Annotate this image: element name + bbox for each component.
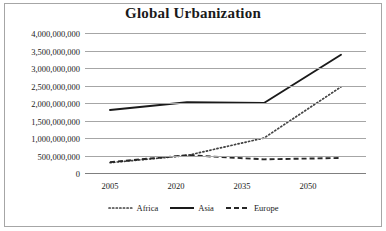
chart-title: Global Urbanization: [0, 5, 386, 22]
legend-item-asia[interactable]: Asia: [169, 203, 214, 213]
gridline-3000000000: [85, 68, 366, 69]
gridline-4000000000: [85, 33, 366, 34]
y-axis-label-3500000000: 3,500,000,000: [0, 48, 80, 57]
x-axis-line: [85, 173, 366, 174]
legend-label-europe: Europe: [254, 203, 279, 213]
legend-item-africa[interactable]: Africa: [108, 203, 159, 213]
y-axis-label-3000000000: 3,000,000,000: [0, 65, 80, 74]
chart-container: Global Urbanization 4,000,000,000 3,500,…: [0, 0, 386, 231]
y-axis-label-2000000000: 2,000,000,000: [0, 100, 80, 109]
y-axis-label-1000000000: 1,000,000,000: [0, 135, 80, 144]
y-axis-label-2500000000: 2,500,000,000: [0, 83, 80, 92]
gridline-1000000000: [85, 138, 366, 139]
chart-legend: Africa Asia Europe: [0, 203, 386, 213]
x-axis-label-2020: 2020: [146, 181, 206, 191]
y-axis-label-500000000: 500,000,000: [0, 153, 80, 162]
legend-item-europe[interactable]: Europe: [225, 203, 279, 213]
legend-swatch-dashed-icon: [225, 204, 251, 212]
y-axis-label-4000000000: 4,000,000,000: [0, 30, 80, 39]
legend-label-africa: Africa: [137, 203, 159, 213]
y-axis-label-0: 0: [0, 170, 80, 179]
series-line-asia: [110, 55, 341, 110]
x-axis-label-2050: 2050: [278, 181, 338, 191]
gridline-3500000000: [85, 51, 366, 52]
gridline-2000000000: [85, 103, 366, 104]
x-axis-label-2035: 2035: [212, 181, 272, 191]
legend-label-asia: Asia: [198, 203, 214, 213]
gridline-1500000000: [85, 121, 366, 122]
y-axis-label-1500000000: 1,500,000,000: [0, 118, 80, 127]
gridline-500000000: [85, 156, 366, 157]
series-line-africa: [110, 87, 341, 163]
legend-swatch-dotted-icon: [108, 204, 134, 212]
gridline-2500000000: [85, 86, 366, 87]
x-axis-label-2005: 2005: [80, 181, 140, 191]
plot-area: [85, 33, 366, 174]
legend-swatch-solid-icon: [169, 204, 195, 212]
